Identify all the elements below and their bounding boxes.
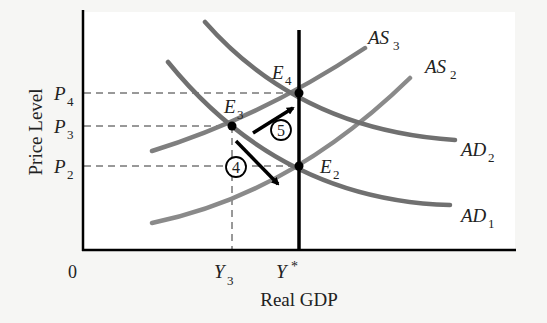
- x-tick-y3: Y 3: [214, 261, 234, 288]
- figure-panel: 4 5 Price Level P 4 P 3 P 2 0 Y 3 Y * Re…: [0, 0, 547, 323]
- step-5-label: 5: [277, 122, 285, 139]
- svg-text:1: 1: [488, 216, 495, 231]
- x-axis-title: Real GDP: [260, 289, 338, 310]
- x-tick-ystar: Y *: [276, 259, 298, 282]
- svg-text:2: 2: [67, 167, 74, 182]
- svg-text:AS: AS: [366, 27, 390, 48]
- ad2-label: AD 2: [459, 139, 495, 165]
- e2-point: [295, 162, 304, 171]
- svg-text:Y: Y: [276, 261, 289, 282]
- svg-text:P: P: [53, 156, 66, 177]
- step-4-label: 4: [232, 159, 240, 176]
- origin-label: 0: [68, 262, 77, 282]
- svg-text:E: E: [223, 96, 236, 117]
- svg-text:P: P: [53, 83, 66, 104]
- ad1-label: AD 1: [459, 205, 495, 231]
- y-axis-title: Price Level: [25, 88, 46, 175]
- svg-text:3: 3: [67, 127, 74, 142]
- e3-point: [228, 122, 237, 131]
- svg-text:AS: AS: [423, 56, 447, 77]
- as3-label: AS 3: [366, 27, 400, 53]
- svg-text:2: 2: [333, 167, 340, 182]
- svg-text:P: P: [53, 116, 66, 137]
- svg-text:2: 2: [450, 67, 457, 82]
- e4-point: [295, 89, 304, 98]
- svg-text:*: *: [291, 259, 298, 274]
- ad2-curve: [205, 22, 455, 140]
- svg-text:3: 3: [237, 107, 244, 122]
- as3-curve: [152, 48, 365, 151]
- y-tick-p2: P 2: [53, 156, 74, 182]
- svg-text:3: 3: [393, 38, 400, 53]
- y-tick-p3: P 3: [53, 116, 74, 142]
- as2-label: AS 2: [423, 56, 457, 82]
- svg-text:2: 2: [488, 150, 495, 165]
- svg-text:Y: Y: [214, 261, 227, 282]
- y-tick-p4: P 4: [53, 83, 74, 109]
- svg-text:4: 4: [67, 94, 74, 109]
- svg-text:3: 3: [227, 273, 234, 288]
- svg-text:AD: AD: [459, 139, 487, 160]
- e3-label: E 3: [223, 96, 244, 122]
- ad-as-diagram: 4 5 Price Level P 4 P 3 P 2 0 Y 3 Y * Re…: [0, 0, 547, 323]
- svg-text:4: 4: [285, 73, 292, 88]
- svg-text:E: E: [271, 62, 284, 83]
- svg-text:E: E: [319, 156, 332, 177]
- svg-text:AD: AD: [459, 205, 487, 226]
